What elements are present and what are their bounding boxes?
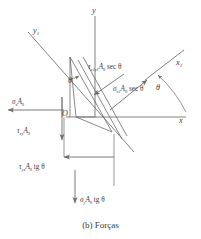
sigma-x1-force-label: σx1A0 sec θ bbox=[113, 86, 143, 93]
y1-axis-label: y1 bbox=[33, 27, 39, 35]
axis-angle-arc bbox=[158, 75, 186, 112]
tau-xy-force-label: τxyA0 bbox=[17, 128, 30, 135]
sigma-y-force-label: σyA0 tg θ bbox=[80, 197, 105, 204]
y-axis-label: y bbox=[92, 7, 96, 15]
wedge-angle-label: θ bbox=[68, 77, 72, 85]
x1-axis-label: x1 bbox=[176, 59, 182, 67]
x-axis-label: x bbox=[179, 117, 183, 125]
wedge-bottom-face bbox=[76, 117, 112, 132]
figure-caption: (b) Forças bbox=[0, 220, 201, 230]
tau-x1y1-force-label: τx1y1A0 sec θ bbox=[88, 64, 121, 71]
axis-angle-label: θ bbox=[156, 84, 160, 92]
tau-yx-force-label: τyxA0 tg θ bbox=[19, 164, 45, 171]
sigma-x-force-label: σxA0 bbox=[12, 99, 24, 106]
origin-label: O bbox=[62, 110, 68, 118]
force-diagram-figure: y y1 x x1 O θ θ τx1y1A0 sec θ σx1A0 sec … bbox=[0, 0, 201, 239]
